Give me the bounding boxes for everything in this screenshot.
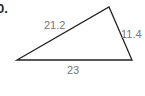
side-label-left: 21.2: [44, 19, 65, 31]
side-label-right: 11.4: [121, 28, 142, 40]
triangle-diagram: 21.2 11.4 23: [0, 0, 145, 96]
side-label-base: 23: [67, 64, 79, 76]
triangle-shape: [17, 7, 132, 60]
